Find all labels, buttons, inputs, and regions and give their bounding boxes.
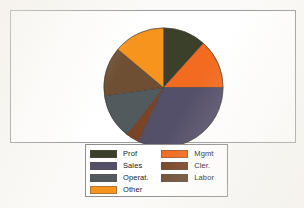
legend-swatch-operat (90, 174, 117, 182)
legend-swatch-sales (90, 162, 117, 170)
legend-item-mgmt[interactable]: Mgmt (161, 148, 223, 159)
legend-label-operat: Operat. (123, 173, 149, 182)
chart-panel (10, 10, 296, 143)
legend-label-prof: Prof (123, 149, 137, 158)
legend-label-cler: Cler. (194, 161, 210, 170)
legend-column-left: Prof Sales Operat. Other (90, 148, 161, 195)
legend-item-labor[interactable]: Labor (161, 172, 223, 183)
pie-slice-group (104, 28, 223, 147)
legend-swatch-other (90, 186, 117, 194)
legend-swatch-prof (90, 150, 117, 158)
pie-chart (103, 27, 224, 148)
legend-swatch-labor (161, 174, 188, 182)
legend-item-operat[interactable]: Operat. (90, 172, 161, 183)
legend-item-cler[interactable]: Cler. (161, 160, 223, 171)
legend-label-sales: Sales (123, 161, 142, 170)
legend-column-right: Mgmt Cler. Labor . (161, 148, 223, 195)
legend-swatch-mgmt (161, 150, 188, 158)
legend-label-mgmt: Mgmt (194, 149, 213, 158)
legend-label-other: Other (123, 185, 142, 194)
pie-chart-screenshot: Prof Sales Operat. Other (0, 0, 304, 208)
legend-swatch-cler (161, 162, 188, 170)
pie-chart-svg (103, 27, 224, 148)
legend-label-labor: Labor (194, 173, 214, 182)
legend-item-other[interactable]: Other (90, 184, 161, 195)
legend-item-sales[interactable]: Sales (90, 160, 161, 171)
legend-item-spacer: . (161, 184, 223, 195)
legend-item-prof[interactable]: Prof (90, 148, 161, 159)
legend: Prof Sales Operat. Other (85, 144, 228, 197)
